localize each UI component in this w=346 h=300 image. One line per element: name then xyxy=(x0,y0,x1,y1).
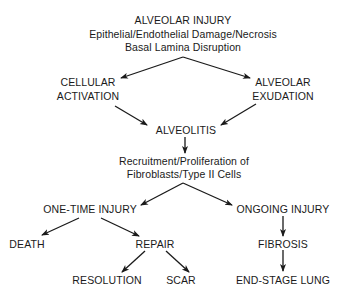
arrow-injury-to-alveolar-exudation xyxy=(183,57,250,78)
node-one-time-injury: ONE-TIME INJURY xyxy=(43,203,136,216)
arrow-recruitment-to-ongoing-injury xyxy=(183,183,232,205)
node-end-stage-lung: END-STAGE LUNG xyxy=(236,274,330,287)
node-repair: REPAIR xyxy=(136,238,175,251)
recruitment-line-1: Recruitment/Proliferation of xyxy=(119,155,249,168)
alveolar-injury-title: ALVEOLAR INJURY xyxy=(135,14,232,27)
arrow-one-time-injury-to-repair xyxy=(101,218,139,236)
recruitment-line-2: Fibroblasts/Type II Cells xyxy=(127,168,242,181)
node-alveolitis: ALVEOLITIS xyxy=(156,124,216,137)
node-fibrosis: FIBROSIS xyxy=(258,238,308,251)
node-resolution: RESOLUTION xyxy=(72,274,141,287)
arrow-cellular-activation-to-alveolitis xyxy=(115,106,147,125)
arrow-recruitment-to-one-time-injury xyxy=(141,183,183,205)
node-ongoing-injury: ONGOING INJURY xyxy=(237,203,330,216)
cellular-activation-line-1: CELLULAR xyxy=(60,76,115,89)
alveolar-injury-detail-1: Epithelial/Endothelial Damage/Necrosis xyxy=(89,28,277,41)
alveolar-exudation-line-2: EXUDATION xyxy=(252,90,313,103)
arrow-alveolar-exudation-to-alveolitis xyxy=(221,104,256,125)
arrow-one-time-injury-to-death xyxy=(42,218,79,235)
node-scar: SCAR xyxy=(166,274,196,287)
alveolar-exudation-line-1: ALVEOLAR xyxy=(255,76,310,89)
flowchart-canvas: ALVEOLAR INJURY Epithelial/Endothelial D… xyxy=(0,0,346,300)
arrow-injury-to-cellular-activation xyxy=(121,57,183,78)
arrow-repair-to-scar xyxy=(166,251,189,272)
cellular-activation-line-2: ACTIVATION xyxy=(57,90,119,103)
node-death: DEATH xyxy=(9,238,44,251)
alveolar-injury-detail-2: Basal Lamina Disruption xyxy=(125,41,241,54)
arrow-repair-to-resolution xyxy=(122,251,145,272)
